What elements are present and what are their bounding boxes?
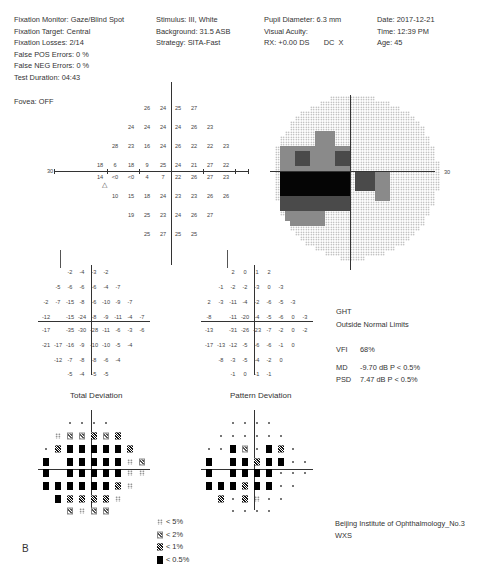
- deviation-value: -2: [267, 357, 272, 363]
- grayscale-cell: [310, 206, 315, 211]
- grayscale-cell: [405, 151, 410, 156]
- grayscale-cell: [330, 251, 335, 256]
- deviation-value: -2: [44, 299, 49, 305]
- p-less-5-icon: [80, 508, 85, 514]
- p-less-5-icon: [158, 519, 163, 525]
- grayscale-cell: [340, 96, 345, 101]
- grayscale-cell: [385, 176, 390, 181]
- threshold-value: 24: [160, 193, 166, 199]
- normal-dot-icon: [244, 435, 246, 437]
- p-less-05-icon: [91, 482, 97, 490]
- threshold-value: 25: [191, 231, 197, 237]
- grayscale-cell: [425, 181, 430, 186]
- p-less-1-icon: [115, 483, 121, 490]
- grayscale-cell: [320, 246, 325, 251]
- legend-label: < 1%: [166, 542, 183, 551]
- deviation-value: -5: [267, 314, 272, 320]
- grayscale-cell: [385, 206, 390, 211]
- grayscale-cell: [395, 186, 400, 191]
- deviation-value: -3: [231, 357, 236, 363]
- grayscale-cell: [355, 121, 360, 126]
- grayscale-cell: [410, 141, 415, 146]
- grayscale-cell: [330, 186, 335, 191]
- grayscale-cell: [315, 196, 320, 201]
- grayscale-cell: [390, 246, 395, 251]
- grayscale-cell: [410, 221, 415, 226]
- grayscale-cell: [365, 126, 370, 131]
- grayscale-cell: [360, 251, 365, 256]
- deviation-value: 2: [231, 269, 234, 275]
- grayscale-cell: [330, 121, 335, 126]
- grayscale-cell: [380, 131, 385, 136]
- deviation-value: -5: [279, 299, 284, 305]
- deviation-value: -7: [68, 357, 73, 363]
- deviation-value: -5: [243, 342, 248, 348]
- grayscale-cell: [335, 141, 340, 146]
- grayscale-map: 30: [270, 95, 470, 270]
- grayscale-cell: [390, 181, 395, 186]
- grayscale-cell: [290, 201, 295, 206]
- psd-label: PSD: [336, 375, 351, 384]
- grayscale-cell: [290, 121, 295, 126]
- deviation-value: -6: [255, 342, 260, 348]
- grayscale-cell: [300, 211, 305, 216]
- grayscale-cell: [365, 251, 370, 256]
- grayscale-cell: [380, 241, 385, 246]
- grayscale-cell: [425, 196, 430, 201]
- blind-spot-marker: △: [102, 181, 107, 189]
- axis-tick: [248, 169, 249, 174]
- p-less-5-icon: [128, 459, 133, 465]
- grayscale-cell: [300, 201, 305, 206]
- grayscale-cell: [325, 241, 330, 246]
- grayscale-cell: [400, 211, 405, 216]
- grayscale-cell: [340, 196, 345, 201]
- grayscale-cell: [300, 156, 305, 161]
- grayscale-cell: [325, 186, 330, 191]
- normal-dot-icon: [69, 422, 71, 424]
- grayscale-cell: [385, 221, 390, 226]
- grayscale-cell: [390, 116, 395, 121]
- grayscale-cell: [305, 146, 310, 151]
- grayscale-cell: [330, 156, 335, 161]
- threshold-value: 23: [175, 193, 181, 199]
- total-deviation-title: Total Deviation: [70, 391, 122, 400]
- grayscale-cell: [400, 126, 405, 131]
- grayscale-cell: [385, 161, 390, 166]
- grayscale-cell: [390, 221, 395, 226]
- grayscale-cell: [285, 141, 290, 146]
- grayscale-cell: [385, 191, 390, 196]
- grayscale-cell: [375, 181, 380, 186]
- grayscale-cell: [310, 156, 315, 161]
- grayscale-cell: [320, 221, 325, 226]
- grayscale-cell: [380, 251, 385, 256]
- p-less-05-icon: [254, 469, 260, 477]
- grayscale-cell: [310, 121, 315, 126]
- grayscale-cell: [410, 126, 415, 131]
- grayscale-cell: [330, 96, 335, 101]
- grayscale-cell: [420, 176, 425, 181]
- threshold-value: 24: [144, 124, 150, 130]
- grayscale-cell: [360, 201, 365, 206]
- grayscale-cell: [325, 111, 330, 116]
- grayscale-cell: [380, 186, 385, 191]
- grayscale-cell: [375, 176, 380, 181]
- grayscale-cell: [340, 206, 345, 211]
- grayscale-cell: [285, 156, 290, 161]
- p-less-1-icon: [115, 433, 121, 440]
- grayscale-cell: [410, 131, 415, 136]
- grayscale-cell: [380, 136, 385, 141]
- grayscale-cell: [325, 196, 330, 201]
- header-col4: Date: 2017-12-21 Time: 12:39 PM Age: 45: [377, 14, 435, 49]
- grayscale-cell: [275, 176, 280, 181]
- grayscale-cell: [395, 181, 400, 186]
- deviation-value: -3: [303, 314, 308, 320]
- deviation-value: -9: [116, 299, 121, 305]
- p-less-2-icon: [79, 433, 85, 440]
- grayscale-cell: [385, 241, 390, 246]
- p-less-05-icon: [67, 445, 73, 453]
- threshold-value: 18: [128, 162, 134, 168]
- grayscale-cell: [385, 116, 390, 121]
- grayscale-cell: [415, 191, 420, 196]
- ght-label: GHT: [336, 307, 352, 316]
- grayscale-cell: [295, 161, 300, 166]
